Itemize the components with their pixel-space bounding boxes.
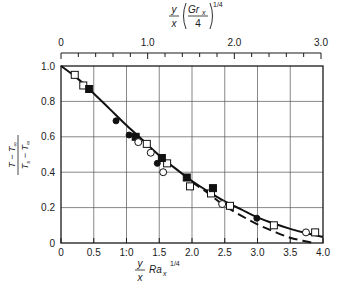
y-tick-label: 0.4 <box>41 167 55 178</box>
x-tick-label: 0.5 <box>87 247 101 258</box>
x-tick-label: 3.0 <box>251 247 265 258</box>
x-label-sup: 1/4 <box>170 260 180 267</box>
grid-lines <box>61 66 323 243</box>
x-tick-label: 0 <box>58 247 64 258</box>
open-square-marker <box>270 222 277 229</box>
open-square-marker <box>71 71 78 78</box>
x-axis-label: y x Ra x 1/4 <box>135 258 180 283</box>
top-tick-label: 0 <box>58 37 64 48</box>
top-label-inner-sub: x <box>201 9 206 16</box>
x-label-frac-den: x <box>137 272 144 283</box>
x-axis-ticks: 00.51:01.52.02.53.03.54.0 <box>58 238 330 258</box>
y-tick-label: 0 <box>49 238 55 249</box>
filled-circle-marker <box>113 118 119 124</box>
top-label-sup: 1/4 <box>213 1 223 8</box>
x-tick-label: 2.0 <box>185 247 199 258</box>
x-label-frac-num: y <box>137 258 144 269</box>
x-tick-label: 2.5 <box>218 247 232 258</box>
open-circle-marker <box>219 201 226 208</box>
top-label-frac-den: x <box>171 18 178 29</box>
top-label-frac-num: y <box>171 4 178 15</box>
filled-circle-marker <box>154 160 160 166</box>
open-circle-marker <box>160 169 167 176</box>
open-circle-marker <box>302 229 309 236</box>
open-square-marker <box>187 183 194 190</box>
filled-circle-marker <box>126 132 132 138</box>
top-tick-label: 1.0 <box>141 37 155 48</box>
x-tick-label: 1:0 <box>120 247 134 258</box>
open-circle-marker <box>147 149 154 156</box>
x-label-main: Ra <box>149 264 162 275</box>
filled-circle-marker <box>254 215 260 221</box>
x-tick-label: 3.5 <box>283 247 297 258</box>
top-label-inner-den: 4 <box>195 18 201 29</box>
x-label-sub: x <box>162 270 167 277</box>
filled-square-marker <box>86 86 93 93</box>
y-axis-label: T − T∞ Ts − T∞ <box>7 135 31 175</box>
open-square-marker <box>312 229 319 236</box>
open-square-marker <box>143 140 150 147</box>
filled-square-marker <box>183 174 190 181</box>
top-x-axis-label: y x Gr x 4 1/4 <box>169 1 223 29</box>
open-square-marker <box>226 202 233 209</box>
y-tick-label: 0.6 <box>41 131 55 142</box>
top-label-inner-num: Gr <box>188 4 200 15</box>
y-tick-label: 1.0 <box>41 61 55 72</box>
open-circle-marker <box>135 139 142 146</box>
top-x-axis: 01.02.03.0 <box>58 37 328 59</box>
top-tick-label: 3.0 <box>314 37 328 48</box>
y-label-den: Ts − T∞ <box>20 141 31 170</box>
y-axis-ticks: 00.20.40.60.81.0 <box>41 61 55 249</box>
top-tick-label: 2.0 <box>227 37 241 48</box>
x-tick-label: 4.0 <box>316 247 330 258</box>
y-tick-label: 0.8 <box>41 96 55 107</box>
y-label-num: T − T∞ <box>7 142 18 168</box>
filled-square-marker <box>209 185 216 192</box>
y-tick-label: 0.2 <box>41 202 55 213</box>
data-markers <box>71 71 318 236</box>
chart: 00.20.40.60.81.0 00.51:01.52.02.53.03.54… <box>0 0 342 286</box>
x-tick-label: 1.5 <box>152 247 166 258</box>
filled-square-marker <box>158 155 165 162</box>
